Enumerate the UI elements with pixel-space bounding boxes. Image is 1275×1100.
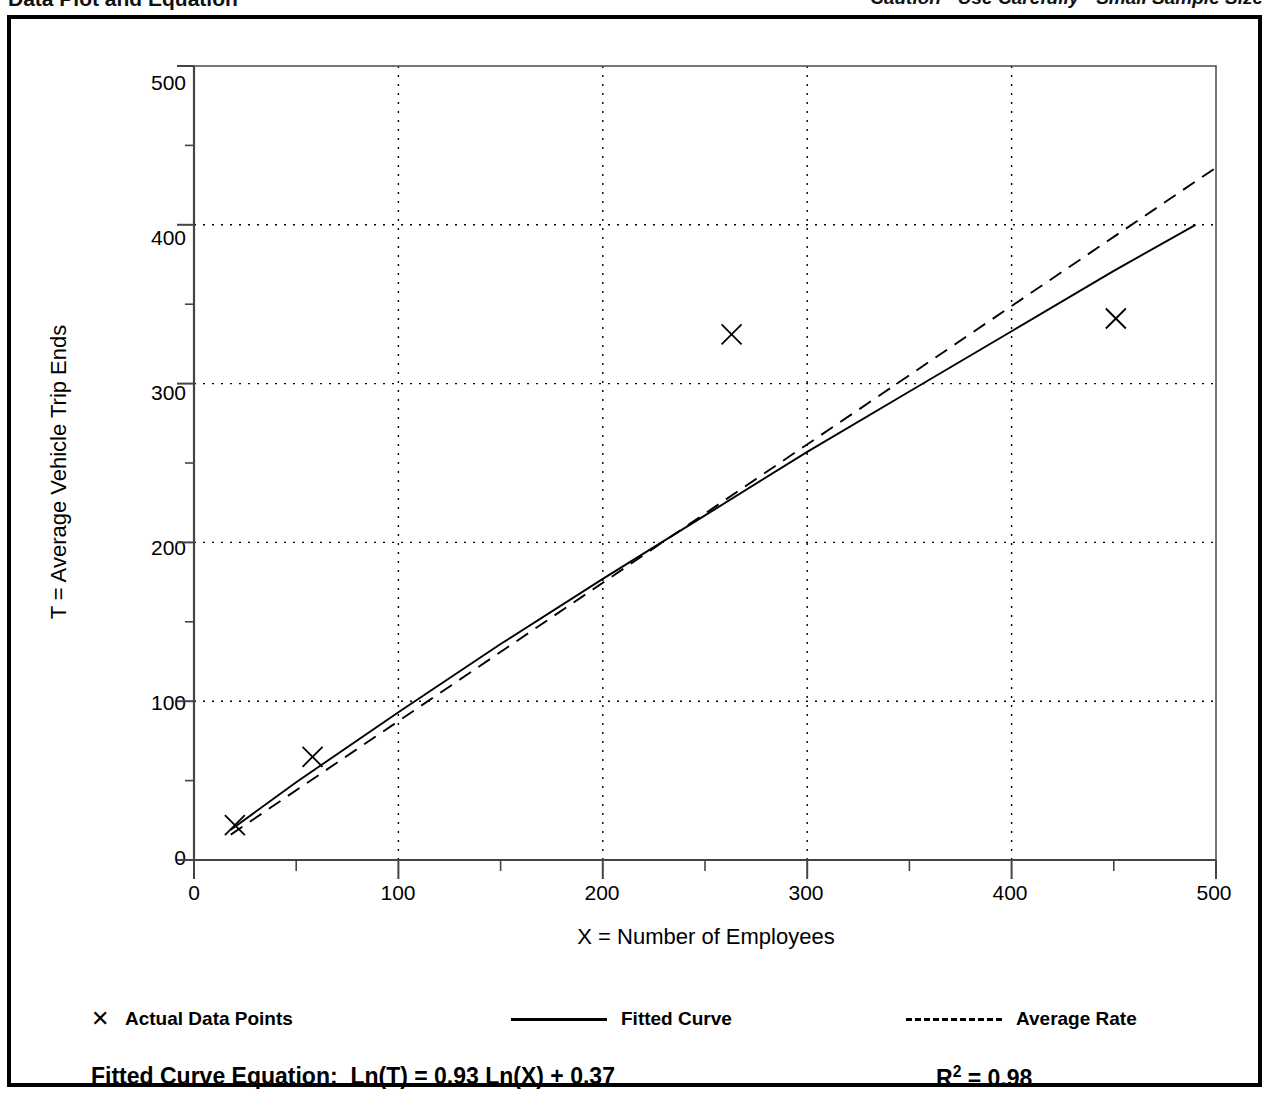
plot-area bbox=[11, 19, 1258, 1083]
x-minor-ticks bbox=[296, 860, 1114, 871]
fitted-curve-line bbox=[231, 225, 1196, 830]
average-rate-line bbox=[231, 168, 1216, 835]
plot-frame bbox=[194, 66, 1216, 860]
legend-label: Fitted Curve bbox=[621, 1008, 732, 1030]
dashed-line-icon bbox=[906, 1018, 1002, 1021]
legend-item-fitted-curve: Fitted Curve bbox=[511, 1008, 732, 1030]
r2-suffix: = 0.98 bbox=[961, 1065, 1032, 1091]
chart-legend: ✕ Actual Data Points Fitted Curve Averag… bbox=[71, 1004, 1201, 1044]
r-squared-value: R2 = 0.98 bbox=[936, 1063, 1032, 1092]
data-point-x-marker bbox=[722, 324, 742, 344]
data-point-x-marker bbox=[1106, 308, 1126, 328]
legend-label: Actual Data Points bbox=[125, 1008, 293, 1030]
caution-note: Caution - Use Carefully - Small Sample S… bbox=[870, 0, 1263, 9]
x-mark-icon: ✕ bbox=[89, 1008, 111, 1030]
gridlines bbox=[194, 66, 1216, 860]
solid-line-icon bbox=[511, 1018, 607, 1021]
fitted-curve-equation: Fitted Curve Equation: Ln(T) = 0.93 Ln(X… bbox=[91, 1063, 615, 1090]
legend-item-average-rate: Average Rate bbox=[906, 1008, 1137, 1030]
equation-row: Fitted Curve Equation: Ln(T) = 0.93 Ln(X… bbox=[71, 1059, 1201, 1100]
figure-border: T = Average Vehicle Trip Ends X = Number… bbox=[7, 15, 1262, 1087]
y-minor-ticks bbox=[185, 145, 194, 780]
data-series-layer bbox=[225, 168, 1216, 835]
legend-item-actual-data-points: ✕ Actual Data Points bbox=[89, 1008, 293, 1030]
legend-label: Average Rate bbox=[1016, 1008, 1137, 1030]
chart-figure: T = Average Vehicle Trip Ends X = Number… bbox=[11, 19, 1258, 1083]
data-point-x-marker bbox=[303, 747, 323, 767]
page-title: Data Plot and Equation bbox=[8, 0, 238, 11]
r2-prefix: R bbox=[936, 1065, 953, 1091]
header-strip: Data Plot and Equation Caution - Use Car… bbox=[0, 0, 1275, 15]
